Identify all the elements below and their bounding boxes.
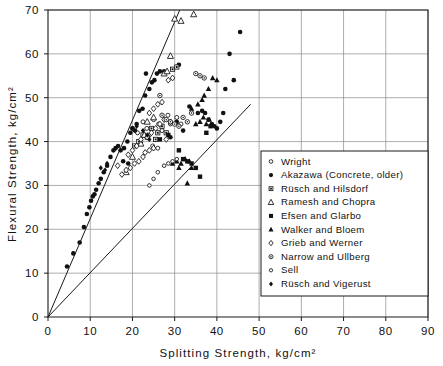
legend-item-label: Wright	[281, 156, 311, 167]
x-tick-label: 20	[125, 325, 139, 337]
legend-item-label: Ramesh and Chopra	[281, 196, 376, 207]
legend-item-label: Akazawa (Concrete, older)	[281, 169, 403, 180]
x-tick-label: 60	[294, 325, 308, 337]
scatter-plot: 0102030405060708090 010203040506070 Wrig…	[0, 0, 443, 366]
x-tick-label: 80	[379, 325, 393, 337]
y-tick-label: 0	[32, 311, 39, 323]
x-axis-title: Splitting Strength, kg/cm²	[159, 347, 316, 359]
x-tick-label: 90	[421, 325, 435, 337]
legend-item-narrow-and-ullberg: Narrow and Ullberg	[269, 251, 370, 262]
legend-item-akazawa-concrete-older: Akazawa (Concrete, older)	[269, 169, 403, 180]
x-tick-label: 30	[168, 325, 182, 337]
legend-item-label: Efsen and Glarbo	[281, 210, 361, 221]
legend-item-grieb-and-werner: Grieb and Werner	[269, 237, 363, 248]
x-tick-label: 40	[210, 325, 224, 337]
y-axis-tick-labels: 010203040506070	[25, 4, 39, 323]
x-tick-label: 50	[252, 325, 266, 337]
y-tick-label: 70	[25, 4, 39, 16]
y-tick-label: 40	[25, 136, 39, 148]
y-tick-label: 50	[25, 92, 39, 104]
y-tick-label: 30	[25, 179, 39, 191]
reference-lines	[48, 10, 251, 317]
legend-item-label: Grieb and Werner	[281, 237, 363, 248]
legend-item-r-sch-and-hilsdorf: Rüsch and Hilsdorf	[269, 183, 368, 194]
x-tick-label: 0	[45, 325, 52, 337]
legend-item-walker-and-bloem: Walker and Bloem	[268, 224, 364, 235]
legend-item-ramesh-and-chopra: Ramesh and Chopra	[268, 196, 376, 207]
y-tick-label: 20	[25, 223, 39, 235]
data-points	[65, 11, 243, 269]
legend-item-label: Sell	[281, 264, 298, 275]
x-tick-label: 70	[337, 325, 351, 337]
x-axis-tick-labels: 0102030405060708090	[45, 325, 436, 337]
legend-item-r-sch-and-vigerust: Rüsch and Vigerust	[269, 278, 371, 289]
series-narrow-and-ullberg	[158, 71, 207, 128]
legend: WrightAkazawa (Concrete, older)Rüsch and…	[261, 151, 428, 296]
legend-item-label: Rüsch and Vigerust	[281, 278, 371, 289]
y-axis-title: Flexural Strength, kg/cm²	[6, 86, 18, 242]
series-sell	[148, 157, 179, 187]
legend-item-label: Narrow and Ullberg	[281, 251, 370, 262]
figure-container: 0102030405060708090 010203040506070 Wrig…	[0, 0, 443, 366]
legend-item-label: Walker and Bloem	[281, 224, 365, 235]
y-tick-label: 60	[25, 48, 39, 60]
x-tick-label: 10	[83, 325, 97, 337]
y-tick-label: 10	[25, 267, 39, 279]
legend-item-efsen-and-glarbo: Efsen and Glarbo	[269, 210, 361, 221]
upper-bound-line	[48, 10, 180, 317]
legend-item-label: Rüsch and Hilsdorf	[281, 183, 368, 194]
